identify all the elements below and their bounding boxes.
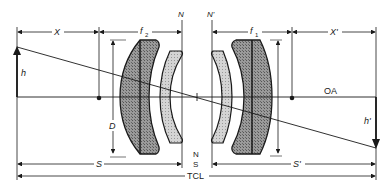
nodal-separation-n: N [193, 150, 199, 159]
front-focal-point [97, 96, 102, 101]
nodal-separation-s: S [193, 160, 198, 169]
image-arrow: h' [364, 97, 380, 149]
svg-text:D: D [109, 121, 116, 131]
svg-text:h': h' [364, 116, 371, 126]
chief-ray [17, 47, 376, 148]
optical-diagram: OA N N' X f 2 f 1 X' D [0, 0, 391, 188]
dim-f2: f 2 [100, 24, 181, 38]
front-nodal-label: N [178, 10, 184, 19]
object-arrow: h [13, 46, 26, 97]
dim-tcl: TCL [18, 170, 375, 181]
dim-f1: f 1 [213, 24, 291, 38]
svg-text:X: X [53, 27, 61, 37]
svg-text:S': S' [293, 159, 301, 169]
svg-text:h: h [21, 68, 26, 78]
svg-text:TCL: TCL [187, 171, 204, 181]
rear-focal-point [290, 96, 295, 101]
svg-text:S: S [96, 159, 102, 169]
dim-s-prime: S' [213, 158, 375, 169]
rear-nodal-label: N' [207, 10, 215, 19]
optical-axis-label: OA [324, 86, 337, 96]
dim-x: X [18, 26, 98, 37]
dim-x-prime: X' [293, 26, 375, 37]
dim-s: S [18, 158, 181, 169]
svg-text:X': X' [329, 27, 338, 37]
